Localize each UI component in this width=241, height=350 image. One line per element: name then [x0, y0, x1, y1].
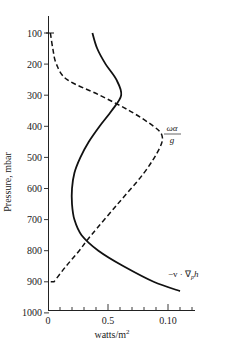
y-tick-label: 600	[27, 183, 42, 194]
annotation-omega-alpha-over-g: ωα g	[164, 123, 181, 145]
x-tick-label: 0.5	[102, 315, 115, 326]
annotation-advection: −v · ∇ph	[168, 269, 199, 280]
y-tick-label: 200	[27, 59, 42, 70]
y-tick-label: 800	[27, 245, 42, 256]
chart: 1002003004005006007008009001000 00.50.10…	[0, 0, 241, 350]
series-omega-dashed-line	[48, 33, 162, 282]
y-tick-label: 400	[27, 121, 42, 132]
x-tick-label: 0	[46, 315, 51, 326]
svg-text:g: g	[170, 135, 175, 145]
axes: 1002003004005006007008009001000 00.50.10	[22, 16, 195, 326]
y-tick-label: 700	[27, 214, 42, 225]
y-tick-label: 100	[27, 28, 42, 39]
y-tick-label: 300	[27, 90, 42, 101]
y-tick-label: 500	[27, 152, 42, 163]
x-ticks: 00.50.10	[46, 304, 193, 326]
x-tick-label: 0.10	[159, 315, 177, 326]
y-tick-label: 900	[27, 276, 42, 287]
y-axis-label: Pressure, mbar	[2, 152, 13, 212]
x-axis-label: watts/m2	[94, 328, 130, 340]
y-tick-label: 1000	[22, 307, 42, 318]
svg-text:ωα: ωα	[166, 123, 177, 133]
series-advection-solid-line	[72, 33, 180, 291]
y-ticks: 1002003004005006007008009001000	[22, 28, 49, 319]
